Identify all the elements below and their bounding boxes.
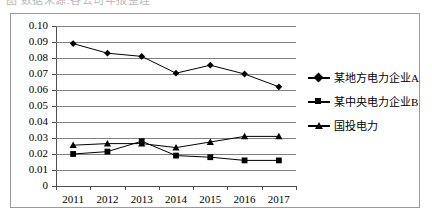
x-axis-tick	[227, 186, 228, 190]
legend-item[interactable]: 某地方电力企业A	[308, 66, 428, 90]
data-point-marker	[70, 40, 77, 47]
x-axis-tick	[90, 186, 91, 190]
legend-key-marker	[315, 98, 321, 104]
chart-legend: 某地方电力企业A某中央电力企业B国投电力	[308, 66, 428, 138]
square-icon	[315, 98, 321, 104]
data-point-marker	[173, 70, 180, 77]
y-axis-label: 0.04	[8, 116, 48, 127]
y-axis-label: 0.08	[8, 52, 48, 63]
diamond-icon	[314, 73, 324, 83]
legend-item-label: 某中央电力企业B	[330, 96, 418, 108]
series-layer	[56, 26, 296, 186]
legend-key-marker	[315, 122, 323, 129]
data-point-marker	[276, 158, 282, 164]
legend-marker-diamond-icon	[308, 72, 330, 84]
data-point-marker	[207, 62, 214, 69]
legend-marker-triangle-icon	[308, 120, 330, 132]
legend-marker-square-icon	[308, 96, 330, 108]
x-axis-tick	[262, 186, 263, 190]
legend-item-label: 某地方电力企业A	[330, 72, 419, 84]
y-axis-label: 0.10	[8, 20, 48, 31]
data-point-marker	[241, 71, 248, 78]
y-axis-label: 0.05	[8, 100, 48, 111]
x-axis	[56, 186, 296, 187]
data-point-marker	[105, 149, 111, 155]
data-point-marker	[275, 83, 282, 90]
x-axis-tick	[125, 186, 126, 190]
y-axis-label: 0.03	[8, 132, 48, 143]
data-point-marker	[242, 158, 248, 164]
legend-item-label: 国投电力	[330, 120, 378, 132]
data-point-marker	[70, 151, 76, 157]
y-axis-label: 0.09	[8, 36, 48, 47]
x-axis-tick	[193, 186, 194, 190]
data-point-marker	[207, 154, 213, 160]
y-axis-label: 0.07	[8, 68, 48, 79]
chart-figure: 00.010.020.030.040.050.060.070.080.090.1…	[10, 13, 420, 208]
data-point-marker	[138, 53, 145, 60]
y-axis-label: 0.06	[8, 84, 48, 95]
top-text-fragment: 图 数据来源:各公司年报整理	[0, 0, 432, 9]
data-point-marker	[173, 153, 179, 159]
y-axis-label: 0.02	[8, 148, 48, 159]
y-axis-label: 0	[8, 180, 48, 191]
data-point-marker	[104, 50, 111, 57]
legend-key-marker	[315, 74, 322, 81]
legend-item[interactable]: 国投电力	[308, 114, 428, 138]
series-line	[73, 44, 279, 87]
x-axis-tick	[159, 186, 160, 190]
top-text-fragment-label: 图 数据来源:各公司年报整理	[6, 0, 151, 7]
triangle-icon	[315, 122, 323, 129]
plot-area: 00.010.020.030.040.050.060.070.080.090.1…	[56, 26, 296, 186]
x-axis-label: 2017	[259, 193, 299, 205]
legend-item[interactable]: 某中央电力企业B	[308, 90, 428, 114]
x-axis-tick	[56, 186, 57, 190]
x-axis-tick	[296, 186, 297, 190]
y-axis-label: 0.01	[8, 164, 48, 175]
